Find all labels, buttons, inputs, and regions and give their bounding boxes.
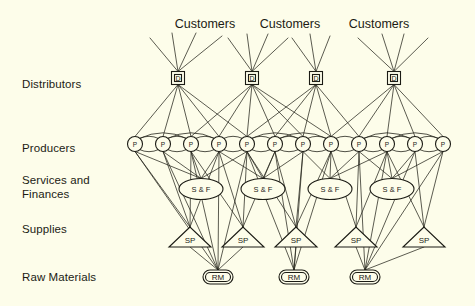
edge-distributor-producer (394, 85, 415, 137)
producer-node-label: P (273, 141, 277, 148)
edge-producer-services (359, 152, 392, 179)
producer-node-label: P (385, 141, 389, 148)
tier-label-services: Services and (22, 174, 90, 186)
edge-distributor-producer (394, 85, 443, 137)
producer-peer-arc (307, 149, 327, 151)
producer-node-label: P (329, 141, 333, 148)
customer-ray (310, 34, 316, 72)
edge-producer-rawmaterials (135, 152, 218, 271)
tier-label-services2: Finances (22, 188, 70, 200)
supplies-node-label: SP (238, 236, 249, 245)
edge-producer-services (330, 152, 359, 179)
edge-producer-rawmaterials (218, 152, 247, 271)
customers-label: Customers (175, 17, 235, 31)
tier-label-supplies: Supplies (22, 223, 67, 235)
producer-node-label: P (413, 141, 417, 148)
supplies-node-label: SP (419, 236, 430, 245)
edge-distributor-producer (247, 85, 252, 137)
distributor-node-label: D (175, 75, 180, 82)
tier-label-layer: DistributorsProducersServices andFinance… (22, 78, 96, 283)
edge-distributor-producer (316, 85, 331, 137)
producer-node-label: P (357, 141, 361, 148)
distributor-node-label: D (249, 75, 254, 82)
producer-peer-arc (251, 149, 271, 151)
edge-producer-rawmaterials (359, 152, 365, 271)
raw-materials-node-label: RM (288, 273, 301, 282)
edge-producer-rawmaterials (247, 152, 294, 271)
customers-label: Customers (260, 17, 320, 31)
producer-peer-arc (363, 149, 383, 151)
supply-chain-diagram: DDDDPPPPPPPPPPPPS & FS & FS & FS & FSPSP… (0, 0, 475, 306)
producer-peer-arc (167, 149, 187, 151)
producer-node-label: P (441, 141, 445, 148)
producer-node-label: P (189, 141, 193, 148)
edge-distributor-producer (359, 85, 394, 137)
producer-peer-arc (223, 136, 243, 138)
edge-distributor-producer (135, 85, 178, 137)
producer-peer-arc (279, 149, 299, 151)
customer-ray-layer (150, 33, 428, 72)
services-finances-node-label: S & F (383, 185, 402, 194)
customer-ray (178, 36, 222, 72)
tier-label-raw_materials: Raw Materials (22, 271, 96, 283)
supplies-node-label: SP (185, 236, 196, 245)
customers-label: Customers (349, 17, 409, 31)
customer-ray (252, 34, 268, 72)
edge-producer-rawmaterials (365, 152, 387, 271)
supplies-node-label: SP (291, 236, 302, 245)
producer-peer-arc (139, 149, 159, 151)
supplies-node-label: SP (351, 236, 362, 245)
node-layer: DDDDPPPPPPPPPPPPS & FS & FS & FS & FSPSP… (128, 72, 451, 285)
customer-label-layer: CustomersCustomersCustomers (175, 17, 409, 31)
edge-producer-supplies (356, 152, 359, 228)
edge-producer-supplies (424, 152, 443, 228)
customer-ray (394, 38, 428, 72)
edge-distributor-producer (316, 85, 359, 137)
edge-distributor-producer (219, 85, 252, 137)
customer-ray (178, 33, 196, 72)
edge-producer-rawmaterials (294, 152, 331, 271)
customer-ray (292, 38, 316, 72)
edge-producer-rawmaterials (365, 152, 443, 271)
customer-ray (394, 34, 404, 72)
edge-producer-supplies (415, 152, 424, 228)
producer-node-label: P (245, 141, 249, 148)
edge-producer-rawmaterials (218, 152, 219, 271)
producer-peer-arc (223, 149, 243, 151)
customer-ray (252, 38, 288, 72)
network-graph-canvas: DDDDPPPPPPPPPPPPS & FS & FS & FS & FSPSP… (0, 0, 475, 306)
tier-label-producers: Producers (22, 142, 75, 154)
edge-producer-services (303, 152, 330, 179)
edge-producer-services (201, 152, 247, 179)
services-finances-node-label: S & F (254, 185, 273, 194)
producer-node-label: P (217, 141, 221, 148)
edge-producer-services (387, 152, 392, 179)
producer-peer-arc (391, 149, 411, 151)
edge-distributor-producer (331, 85, 394, 137)
producer-peer-arc (335, 136, 355, 138)
edge-producer-services (392, 152, 415, 179)
producer-node-label: P (301, 141, 305, 148)
services-finances-node-label: S & F (321, 185, 340, 194)
edge-producer-rawmaterials (191, 152, 218, 271)
distributor-node-label: D (391, 75, 396, 82)
producer-node-label: P (161, 141, 165, 148)
customer-ray (316, 36, 330, 72)
edge-supplies-rawmaterials (218, 247, 243, 270)
tier-label-distributors: Distributors (22, 78, 82, 90)
producer-peer-arc (335, 149, 355, 151)
edge-supplies-rawmaterials (365, 247, 424, 270)
edge-distributor-producer (191, 85, 252, 137)
producer-peer-arc (195, 149, 215, 151)
services-finances-node-label: S & F (192, 185, 211, 194)
distributor-node-label: D (313, 75, 318, 82)
producer-peer-arc (419, 149, 439, 151)
edge-distributor-producer (163, 85, 178, 137)
raw-materials-node-label: RM (359, 273, 372, 282)
edge-producer-services (330, 152, 331, 179)
raw-materials-node-label: RM (212, 273, 225, 282)
edge-distributor-producer (387, 85, 394, 137)
producer-node-label: P (133, 141, 137, 148)
